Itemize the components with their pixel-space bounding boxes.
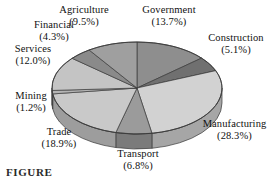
pie-side-transport	[116, 133, 152, 149]
slice-label-financial-pct: (4.3%)	[22, 31, 86, 43]
slice-label-construction-pct: (5.1%)	[196, 44, 276, 56]
slice-label-financial-name: Financial	[34, 19, 74, 30]
slice-label-services-pct: (12.0%)	[2, 55, 64, 67]
slice-label-mining: Mining (1.2%)	[4, 90, 58, 113]
slice-label-mining-name: Mining	[15, 90, 47, 101]
slice-label-agriculture-name: Agriculture	[59, 4, 109, 15]
slice-label-manufacturing-pct: (28.3%)	[192, 130, 277, 142]
figure-page: Agriculture (9.5%) Government (13.7%) Co…	[0, 0, 277, 176]
slice-label-services-name: Services	[15, 43, 51, 54]
slice-label-government: Government (13.7%)	[130, 4, 208, 27]
slice-label-transport-name: Transport	[117, 148, 158, 159]
slice-label-construction-name: Construction	[208, 32, 263, 43]
slice-label-trade-name: Trade	[47, 126, 72, 137]
slice-label-trade: Trade (18.9%)	[30, 126, 88, 149]
slice-label-construction: Construction (5.1%)	[196, 32, 276, 55]
slice-label-government-name: Government	[142, 4, 196, 15]
slice-label-financial: Financial (4.3%)	[22, 19, 86, 42]
slice-label-mining-pct: (1.2%)	[4, 102, 58, 114]
figure-caption-text: FIGURE	[6, 168, 156, 176]
slice-label-manufacturing-name: Manufacturing	[203, 118, 267, 129]
slice-label-trade-pct: (18.9%)	[30, 138, 88, 150]
pie-chart: Agriculture (9.5%) Government (13.7%) Co…	[0, 0, 277, 176]
slice-label-government-pct: (13.7%)	[130, 16, 208, 28]
figure-caption: FIGURE	[6, 168, 156, 176]
slice-label-services: Services (12.0%)	[2, 43, 64, 66]
slice-label-manufacturing: Manufacturing (28.3%)	[192, 118, 277, 141]
